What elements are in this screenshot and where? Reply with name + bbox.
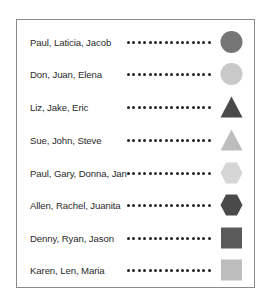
- leader-dot: [154, 269, 157, 272]
- legend-row: Denny, Ryan, Jason: [17, 222, 254, 254]
- leader-dot: [186, 172, 189, 175]
- leader-dot: [149, 269, 152, 272]
- dot-leader: [127, 236, 211, 240]
- leader-dot: [138, 139, 141, 142]
- leader-dot: [208, 269, 211, 272]
- leader-dot: [127, 139, 130, 142]
- leader-dot: [202, 172, 205, 175]
- leader-dot: [208, 106, 211, 109]
- triangle-icon: [220, 96, 243, 119]
- leader-dot: [176, 41, 179, 44]
- leader-dot: [127, 172, 130, 175]
- leader-dot: [186, 204, 189, 207]
- legend-label: Paul, Gary, Donna, Jan: [30, 168, 127, 179]
- leader-dot: [170, 41, 173, 44]
- legend-label: Allen, Rachel, Juanita: [30, 200, 121, 211]
- leader-dot: [143, 106, 146, 109]
- leader-dot: [138, 204, 141, 207]
- leader-dot: [192, 139, 195, 142]
- legend-label: Denny, Ryan, Jason: [30, 233, 114, 244]
- leader-dot: [165, 204, 168, 207]
- leader-dot: [181, 237, 184, 240]
- leader-dot: [170, 106, 173, 109]
- leader-dot: [154, 106, 157, 109]
- leader-dot: [197, 139, 200, 142]
- dot-leader: [127, 138, 211, 142]
- leader-dot: [170, 73, 173, 76]
- dot-leader: [127, 171, 211, 175]
- leader-dot: [176, 269, 179, 272]
- leader-dot: [186, 106, 189, 109]
- leader-dot: [208, 204, 211, 207]
- legend-frame: Paul, Laticia, JacobDon, Juan, ElenaLiz,…: [16, 19, 255, 288]
- leader-dot: [208, 41, 211, 44]
- leader-dot: [197, 269, 200, 272]
- leader-dot: [181, 172, 184, 175]
- leader-dot: [202, 139, 205, 142]
- leader-dot: [186, 139, 189, 142]
- leader-dot: [208, 172, 211, 175]
- legend-row: Allen, Rachel, Juanita: [17, 189, 254, 221]
- leader-dot: [138, 269, 141, 272]
- leader-dot: [192, 204, 195, 207]
- dot-leader: [127, 105, 211, 109]
- leader-dot: [181, 41, 184, 44]
- leader-dot: [154, 139, 157, 142]
- leader-dot: [186, 237, 189, 240]
- leader-dot: [208, 237, 211, 240]
- leader-dot: [165, 73, 168, 76]
- leader-dot: [159, 269, 162, 272]
- leader-dot: [181, 269, 184, 272]
- leader-dot: [165, 237, 168, 240]
- leader-dot: [159, 41, 162, 44]
- leader-dot: [197, 106, 200, 109]
- leader-dot: [132, 172, 135, 175]
- leader-dot: [143, 73, 146, 76]
- leader-dot: [202, 41, 205, 44]
- circle-icon: [220, 63, 243, 86]
- leader-dot: [149, 237, 152, 240]
- leader-dot: [202, 237, 205, 240]
- legend-label: Karen, Len, Maria: [30, 265, 105, 276]
- triangle-icon: [220, 129, 243, 152]
- leader-dot: [127, 106, 130, 109]
- leader-dot: [165, 106, 168, 109]
- legend-row: Paul, Laticia, Jacob: [17, 26, 254, 58]
- leader-dot: [202, 106, 205, 109]
- leader-dot: [192, 172, 195, 175]
- leader-dot: [165, 172, 168, 175]
- leader-dot: [154, 41, 157, 44]
- leader-dot: [127, 204, 130, 207]
- leader-dot: [197, 73, 200, 76]
- leader-dot: [159, 106, 162, 109]
- hexagon-icon: [220, 162, 243, 185]
- leader-dot: [154, 204, 157, 207]
- leader-dot: [154, 73, 157, 76]
- leader-dot: [208, 73, 211, 76]
- leader-dot: [202, 269, 205, 272]
- leader-dot: [176, 172, 179, 175]
- leader-dot: [149, 204, 152, 207]
- leader-dot: [197, 237, 200, 240]
- leader-dot: [202, 73, 205, 76]
- leader-dot: [186, 73, 189, 76]
- circle-icon: [220, 31, 243, 54]
- leader-dot: [186, 269, 189, 272]
- legend-row: Paul, Gary, Donna, Jan: [17, 157, 254, 189]
- leader-dot: [154, 172, 157, 175]
- leader-dot: [192, 73, 195, 76]
- leader-dot: [159, 73, 162, 76]
- leader-dot: [170, 204, 173, 207]
- leader-dot: [143, 269, 146, 272]
- leader-dot: [165, 41, 168, 44]
- leader-dot: [170, 269, 173, 272]
- leader-dot: [176, 237, 179, 240]
- leader-dot: [170, 172, 173, 175]
- leader-dot: [197, 172, 200, 175]
- leader-dot: [170, 237, 173, 240]
- leader-dot: [165, 139, 168, 142]
- leader-dot: [165, 269, 168, 272]
- legend-row: Liz, Jake, Eric: [17, 91, 254, 123]
- leader-dot: [149, 106, 152, 109]
- legend-label: Don, Juan, Elena: [30, 69, 102, 80]
